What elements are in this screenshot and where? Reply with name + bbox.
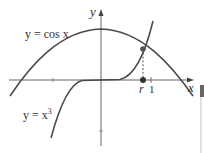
cos-label: y = cos x: [25, 27, 69, 41]
x-axis-label: x: [187, 80, 194, 95]
r-label: r: [139, 82, 144, 96]
cube-label-exponent: 3: [48, 107, 52, 116]
tick-label-1: 1: [149, 83, 155, 95]
cube-label: y = x3: [23, 107, 52, 122]
cos-label-text: y = cos x: [25, 27, 69, 41]
edge-block: [200, 85, 204, 97]
y-axis-arrow-icon: [99, 9, 104, 16]
y-axis-label: y: [88, 4, 96, 19]
cube-label-base: y = x: [23, 108, 48, 122]
cos-vs-cube-plot: y x r 1 y = cos x y = x3: [0, 0, 204, 153]
figure: y x r 1 y = cos x y = x3: [0, 0, 204, 153]
intersection-point: [140, 46, 146, 52]
